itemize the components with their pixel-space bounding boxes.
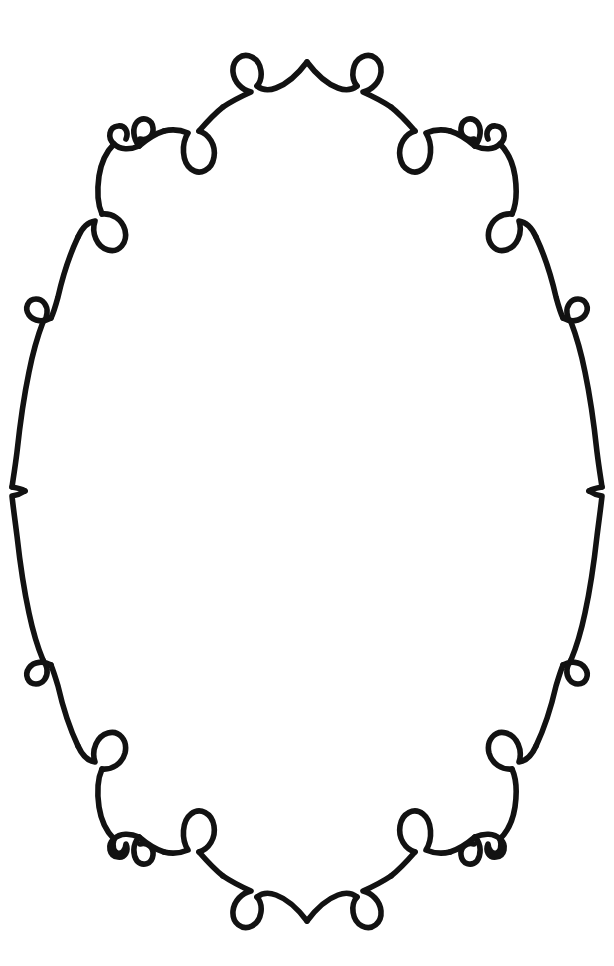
page-canvas: [0, 0, 614, 966]
frame-interior-blank-area: [70, 120, 544, 846]
